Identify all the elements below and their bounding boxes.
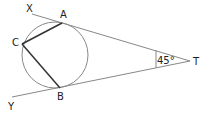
label-y: Y bbox=[7, 101, 15, 112]
chord-ac bbox=[22, 23, 62, 44]
label-a: A bbox=[60, 9, 67, 20]
angle-label: 45° bbox=[157, 55, 175, 66]
tangent-line-yt bbox=[12, 61, 190, 97]
label-b: B bbox=[57, 91, 64, 102]
chord-cb bbox=[22, 44, 60, 88]
label-x: X bbox=[26, 3, 33, 14]
geometry-diagram: X A C B Y T 45° bbox=[0, 0, 209, 117]
tangent-line-xt bbox=[32, 14, 190, 61]
label-c: C bbox=[12, 37, 19, 48]
label-t: T bbox=[192, 56, 200, 67]
